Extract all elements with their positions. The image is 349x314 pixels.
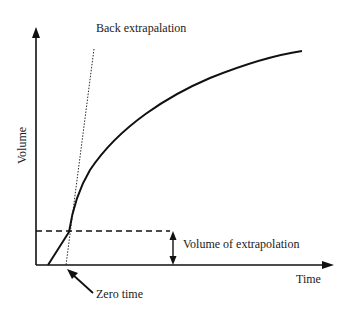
volume-curve [48, 51, 302, 265]
y-axis [32, 27, 40, 265]
x-axis-label: Time [296, 272, 321, 286]
extrapolation-diagram: Back extrapalation Volume of extrapolati… [0, 0, 349, 314]
y-axis-label: Volume [15, 127, 29, 164]
x-axis [36, 261, 334, 269]
volume-extrapolation-double-arrow-icon [170, 231, 177, 265]
zero-time-arrow-icon [67, 269, 93, 293]
y-axis-arrow-icon [32, 27, 40, 38]
volume-of-extrapolation-label: Volume of extrapolation [183, 237, 299, 251]
back-extrapolation-label: Back extrapalation [96, 21, 186, 35]
back-extrapolation-dotted-line [66, 49, 94, 265]
x-axis-arrow-icon [322, 261, 334, 269]
zero-time-label: Zero time [96, 287, 143, 301]
